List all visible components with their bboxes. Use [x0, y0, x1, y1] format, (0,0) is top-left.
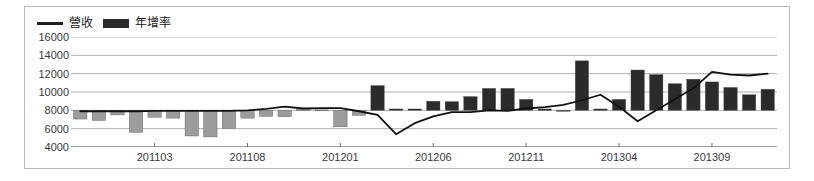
bar [724, 87, 737, 110]
plot-area [71, 37, 777, 147]
plot-area-wrapper: 40006000800010000120001400016000 [25, 37, 791, 147]
bar [705, 82, 718, 110]
bar [464, 97, 477, 111]
x-axis-tick-label: 201211 [508, 151, 544, 163]
bar [575, 61, 588, 111]
y-axis-tick-label: 4000 [45, 141, 69, 153]
y-axis-tick-label: 14000 [38, 49, 69, 61]
legend-item-revenue: 營收 [37, 17, 93, 29]
bar [241, 110, 254, 118]
bar [389, 109, 402, 110]
bar [742, 95, 755, 111]
bar [297, 109, 310, 110]
bar [334, 110, 347, 127]
y-axis-tick-label: 8000 [45, 104, 69, 116]
bar [538, 109, 551, 110]
bar [315, 110, 328, 111]
y-axis-labels: 40006000800010000120001400016000 [25, 37, 71, 147]
x-axis-tick-label: 201304 [601, 151, 638, 163]
chart-screenshot: 營收 年增率 40006000800010000120001400016000 … [0, 0, 814, 181]
legend-swatch-marker [103, 19, 129, 28]
chart-legend: 營收 年增率 [37, 15, 171, 31]
bar [259, 110, 272, 116]
legend-line-marker [37, 22, 63, 25]
bar [482, 88, 495, 110]
line-series-path [80, 72, 767, 134]
chart-container: 營收 年增率 40006000800010000120001400016000 … [24, 6, 790, 169]
legend-label-growth-rate: 年增率 [135, 17, 171, 29]
bar [185, 110, 198, 136]
bar [650, 75, 663, 111]
bar [557, 110, 570, 111]
bar [222, 110, 235, 128]
bar [129, 110, 142, 132]
x-axis-tick-label: 201206 [415, 151, 452, 163]
bar [427, 101, 440, 110]
bar [612, 99, 625, 110]
legend-label-revenue: 營收 [69, 17, 93, 29]
y-axis-tick-label: 16000 [38, 31, 69, 43]
bar [631, 70, 644, 110]
chart-svg [71, 37, 777, 147]
y-axis-tick-label: 10000 [38, 86, 69, 98]
bar [445, 102, 458, 111]
y-axis-tick-label: 12000 [38, 68, 69, 80]
y-axis-tick-label: 6000 [45, 123, 69, 135]
x-axis-tick-label: 201108 [230, 151, 266, 163]
x-axis-labels: 2011032011082012012012062012112013042013… [71, 147, 777, 171]
bar [371, 86, 384, 111]
x-axis-tick-label: 201309 [694, 151, 731, 163]
x-axis-tick-label: 201103 [137, 151, 173, 163]
bar [278, 110, 291, 116]
bar [204, 110, 217, 137]
bar [761, 89, 774, 110]
bar [501, 88, 514, 110]
bar [408, 109, 421, 110]
legend-item-growth-rate: 年增率 [103, 17, 171, 29]
bar [594, 109, 607, 110]
x-axis-tick-label: 201201 [322, 151, 359, 163]
